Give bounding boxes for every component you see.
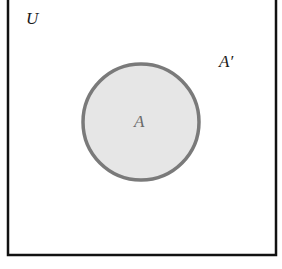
- complement-label: A′: [218, 52, 233, 71]
- set-a-label: A: [133, 112, 145, 131]
- universe-label: U: [26, 9, 40, 28]
- venn-diagram: U A′ A: [0, 0, 282, 269]
